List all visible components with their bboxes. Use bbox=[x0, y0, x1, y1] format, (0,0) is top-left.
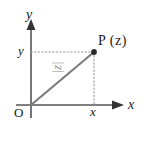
argand-diagram-figure: y x O P (z) y x |z| bbox=[0, 0, 151, 142]
diagram-canvas bbox=[0, 0, 151, 142]
x-axis-label: x bbox=[128, 98, 134, 112]
point-p-label: P (z) bbox=[98, 34, 127, 48]
point-p-marker bbox=[91, 49, 97, 55]
modulus-vector-line bbox=[31, 52, 94, 105]
y-tick-label: y bbox=[18, 44, 24, 57]
y-axis-label: y bbox=[26, 8, 32, 22]
x-axis-arrowhead bbox=[112, 101, 124, 110]
origin-label: O bbox=[14, 106, 23, 119]
modulus-label: |z| bbox=[50, 61, 63, 73]
x-tick-label: x bbox=[90, 105, 96, 118]
